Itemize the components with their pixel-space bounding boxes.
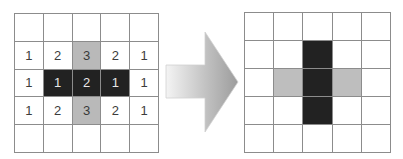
output-grid bbox=[244, 12, 391, 153]
input-cell-r2-c4: 2 bbox=[101, 42, 130, 70]
output-cell-r3-c5 bbox=[362, 69, 391, 97]
input-cell-r5-c5 bbox=[130, 125, 159, 153]
input-cell-r5-c3 bbox=[73, 125, 102, 153]
output-cell-r4-c4 bbox=[333, 97, 362, 125]
input-cell-r1-c5 bbox=[130, 14, 159, 42]
output-cell-r2-c3 bbox=[303, 41, 332, 69]
arrow-right-icon bbox=[160, 28, 244, 136]
output-cell-r1-c4 bbox=[333, 13, 362, 41]
output-cell-r4-c5 bbox=[362, 97, 391, 125]
input-cell-r3-c3: 2 bbox=[73, 70, 102, 98]
input-cell-r2-c3: 3 bbox=[73, 42, 102, 70]
output-cell-r5-c4 bbox=[333, 125, 362, 153]
output-cell-r1-c1 bbox=[245, 13, 274, 41]
output-cell-r2-c5 bbox=[362, 41, 391, 69]
input-grid: 123211121112321 bbox=[14, 13, 159, 153]
output-cell-r2-c1 bbox=[245, 41, 274, 69]
output-cell-r2-c2 bbox=[274, 41, 303, 69]
input-cell-r1-c3 bbox=[73, 14, 102, 42]
input-cell-r4-c5: 1 bbox=[130, 97, 159, 125]
output-cell-r1-c5 bbox=[362, 13, 391, 41]
output-cell-r3-c1 bbox=[245, 69, 274, 97]
input-cell-r4-c4: 2 bbox=[101, 97, 130, 125]
output-cell-r2-c4 bbox=[333, 41, 362, 69]
output-cell-r4-c1 bbox=[245, 97, 274, 125]
output-cell-r5-c3 bbox=[303, 125, 332, 153]
input-cell-r1-c2 bbox=[44, 14, 73, 42]
input-cell-r1-c4 bbox=[101, 14, 130, 42]
input-cell-r3-c4: 1 bbox=[101, 70, 130, 98]
input-cell-r4-c3: 3 bbox=[73, 97, 102, 125]
output-cell-r5-c2 bbox=[274, 125, 303, 153]
input-cell-r4-c1: 1 bbox=[15, 97, 44, 125]
output-cell-r3-c3 bbox=[303, 69, 332, 97]
output-cell-r5-c1 bbox=[245, 125, 274, 153]
input-cell-r1-c1 bbox=[15, 14, 44, 42]
input-cell-r3-c2: 1 bbox=[44, 70, 73, 98]
output-cell-r4-c2 bbox=[274, 97, 303, 125]
input-cell-r2-c1: 1 bbox=[15, 42, 44, 70]
input-cell-r3-c1: 1 bbox=[15, 70, 44, 98]
output-cell-r1-c3 bbox=[303, 13, 332, 41]
input-cell-r5-c4 bbox=[101, 125, 130, 153]
input-cell-r3-c5: 1 bbox=[130, 70, 159, 98]
input-cell-r5-c1 bbox=[15, 125, 44, 153]
input-cell-r2-c2: 2 bbox=[44, 42, 73, 70]
input-cell-r2-c5: 1 bbox=[130, 42, 159, 70]
output-cell-r5-c5 bbox=[362, 125, 391, 153]
output-cell-r4-c3 bbox=[303, 97, 332, 125]
input-cell-r4-c2: 2 bbox=[44, 97, 73, 125]
output-cell-r1-c2 bbox=[274, 13, 303, 41]
input-cell-r5-c2 bbox=[44, 125, 73, 153]
output-cell-r3-c4 bbox=[333, 69, 362, 97]
output-cell-r3-c2 bbox=[274, 69, 303, 97]
